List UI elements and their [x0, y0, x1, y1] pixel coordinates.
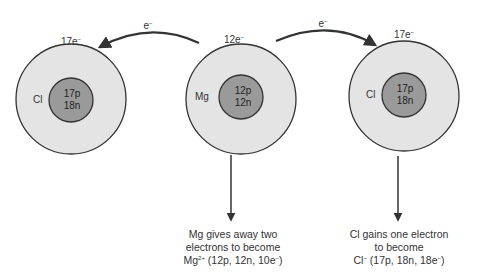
shell-label-mg: 12e−: [224, 34, 244, 46]
shell-label-cl-right: 17e−: [394, 29, 414, 41]
electron-label-right: e−: [318, 18, 327, 30]
element-symbol-mg: Mg: [195, 91, 209, 103]
proton-count: 17p: [64, 88, 81, 100]
proton-count: 17p: [397, 83, 414, 95]
electron-transfer-arrow-right: [276, 30, 375, 45]
neutron-count: 18n: [64, 100, 81, 112]
caption-cl: Cl gains one electron to become Cl− (17p…: [350, 228, 449, 267]
element-symbol-cl-right: Cl: [366, 89, 375, 101]
proton-count: 12p: [235, 85, 252, 97]
neutron-count: 18n: [397, 95, 414, 107]
nucleus-label-mg: 12p 12n: [235, 85, 252, 109]
electron-transfer-arrow-left: [100, 32, 199, 47]
shell-label-cl-left: 17e−: [61, 36, 81, 48]
nucleus-label-cl-left: 17p 18n: [64, 88, 81, 112]
electron-label-left: e−: [143, 20, 152, 32]
nucleus-label-cl-right: 17p 18n: [397, 83, 414, 107]
caption-mg: Mg gives away two electrons to become Mg…: [183, 228, 282, 267]
element-symbol-cl-left: Cl: [33, 94, 42, 106]
neutron-count: 12n: [235, 97, 252, 109]
